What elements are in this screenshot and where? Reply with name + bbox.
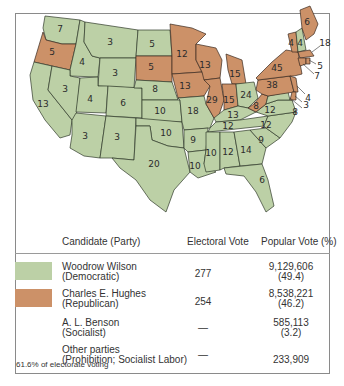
- ev-al: 12: [222, 147, 233, 157]
- ev-la: 10: [189, 161, 201, 171]
- swatch-democratic: [15, 262, 52, 280]
- ev-wy: 3: [112, 68, 118, 78]
- ev-me: 6: [304, 17, 310, 27]
- ev-co: 6: [120, 98, 126, 108]
- ev-id: 4: [79, 57, 85, 67]
- ev-nh: 4: [297, 38, 303, 48]
- ev-ok: 10: [160, 128, 172, 138]
- popular-pct: (49.4): [255, 272, 327, 282]
- ev-or: 5: [49, 47, 55, 57]
- popular-vote: 233,909: [255, 355, 327, 365]
- ev-nv: 3: [62, 84, 68, 94]
- ev-ky: 13: [227, 110, 238, 120]
- ev-ar: 9: [190, 135, 196, 145]
- ev-ct: 7: [314, 71, 320, 81]
- ev-il: 29: [206, 95, 218, 105]
- popular-pct: (46.2): [255, 299, 327, 309]
- ev-vt: 4: [288, 38, 294, 48]
- ev-mt: 3: [107, 37, 113, 47]
- ev-pa: 38: [266, 80, 278, 90]
- state-ri: [306, 58, 310, 64]
- ev-wi: 13: [199, 60, 210, 70]
- ev-oh: 24: [240, 90, 252, 100]
- ev-ga: 14: [240, 145, 252, 155]
- state-sd: [136, 56, 172, 82]
- ev-sc: 9: [258, 135, 264, 145]
- ev-wa: 7: [57, 24, 63, 34]
- state-az: [70, 113, 106, 158]
- ev-ut: 4: [87, 94, 93, 104]
- ev-ny: 45: [271, 63, 282, 73]
- ev-az: 3: [82, 131, 88, 141]
- state-fl: [224, 164, 274, 212]
- ev-mi: 15: [229, 69, 240, 79]
- candidate-party: (Republican): [62, 299, 119, 309]
- header-candidate: Candidate (Party): [62, 236, 140, 250]
- ev-ri: 5: [317, 61, 323, 71]
- ev-nc: 12: [260, 120, 271, 130]
- us-electoral-map: 7 5 13 4 3 3 3 4 6 3 3 5 5 8 10 10 20 12…: [0, 0, 344, 230]
- turnout-footnote: 61.6% of electorate voting: [16, 360, 109, 369]
- popular-pct: (3.2): [255, 328, 327, 338]
- header-electoral-vote: Electoral Vote: [187, 236, 249, 250]
- header-divider: [15, 253, 330, 254]
- ev-nd: 5: [149, 39, 155, 49]
- ev-ks: 10: [154, 106, 166, 116]
- ev-md: 8: [292, 107, 298, 117]
- ev-tn: 12: [222, 121, 233, 131]
- ev-fl: 6: [259, 175, 265, 185]
- ev-wv: 8: [253, 101, 259, 111]
- ev-de: 3: [303, 100, 309, 110]
- electoral-vote: 254: [173, 296, 233, 307]
- ev-nm: 3: [114, 132, 120, 142]
- ev-mn: 12: [176, 49, 187, 59]
- ev-ca: 13: [37, 99, 48, 109]
- ev-ia: 13: [179, 81, 190, 91]
- ev-ma: 18: [319, 38, 331, 48]
- ev-in: 15: [223, 95, 234, 105]
- candidate-party: (Socialist): [62, 328, 106, 338]
- swatch-republican: [15, 289, 52, 307]
- ev-tx: 20: [148, 159, 160, 169]
- ev-mo: 18: [187, 106, 199, 116]
- ev-va: 12: [264, 105, 275, 115]
- ev-sd: 5: [148, 62, 154, 72]
- ev-ms: 10: [205, 148, 217, 158]
- ev-ne: 8: [152, 84, 158, 94]
- electoral-vote: 277: [173, 268, 233, 279]
- candidate-party: (Democratic): [62, 272, 119, 282]
- electoral-vote: —: [173, 349, 233, 360]
- electoral-vote: —: [173, 322, 233, 333]
- header-popular-vote: Popular Vote (%): [261, 236, 337, 250]
